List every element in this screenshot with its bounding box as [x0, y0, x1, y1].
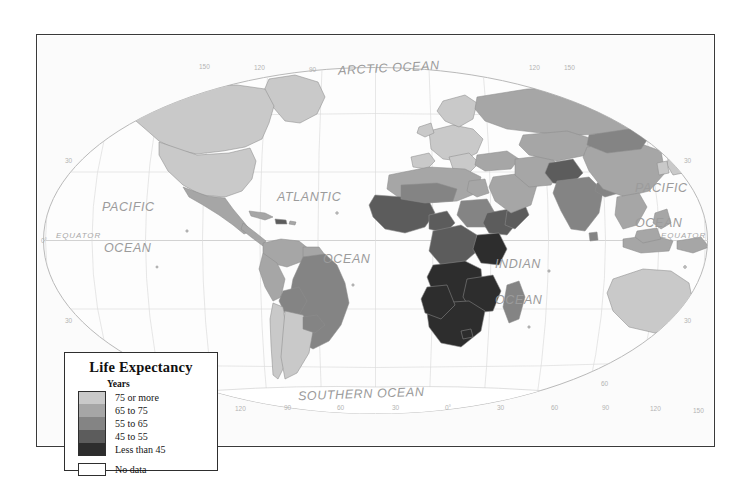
legend-class-row: Less than 45 [78, 443, 217, 456]
legend-class-label: 45 to 55 [115, 431, 148, 442]
region-tasmania [663, 333, 677, 345]
region-sri-lanka [589, 232, 598, 241]
island-dot [336, 212, 339, 215]
legend-subtitle: Years [107, 379, 217, 389]
island-dot [528, 326, 530, 328]
legend-nodata-swatch [78, 463, 106, 476]
region-siberia-east [637, 91, 685, 125]
legend-class-list: 75 or more65 to 7555 to 6545 to 55Less t… [78, 391, 217, 456]
legend-class-label: 75 or more [115, 392, 159, 403]
region-hispaniola [275, 219, 287, 224]
region-japan [667, 147, 689, 175]
legend-color-swatch [78, 430, 106, 443]
legend-class-row: 55 to 65 [78, 417, 217, 430]
island-dot [684, 266, 687, 269]
island-dot [352, 284, 354, 286]
legend-nodata-label: No data [115, 464, 146, 475]
legend-class-label: 55 to 65 [115, 418, 148, 429]
legend-class-row: 65 to 75 [78, 404, 217, 417]
legend-color-swatch [78, 443, 106, 456]
legend-color-swatch [78, 417, 106, 430]
region-korea [657, 161, 669, 175]
island-dot [548, 270, 550, 272]
legend-color-swatch [78, 404, 106, 417]
map-legend: Life Expectancy Years 75 or more65 to 75… [64, 352, 218, 471]
region-puerto-rico [289, 221, 296, 225]
legend-class-label: Less than 45 [115, 444, 166, 455]
legend-class-row: 45 to 55 [78, 430, 217, 443]
legend-class-label: 65 to 75 [115, 405, 148, 416]
legend-class-row: 75 or more [78, 391, 217, 404]
island-dot [186, 230, 188, 232]
region-new-zealand [705, 313, 714, 335]
island-dot [156, 266, 158, 268]
region-lesotho [461, 329, 473, 339]
region-alaska [97, 100, 133, 127]
island-dot [704, 282, 706, 284]
legend-nodata-row: No data [78, 462, 217, 477]
legend-title: Life Expectancy [65, 359, 217, 376]
map-page: ARCTIC OCEANPACIFICOCEANATLANTICOCEANIND… [0, 0, 736, 492]
legend-color-swatch [78, 391, 106, 404]
